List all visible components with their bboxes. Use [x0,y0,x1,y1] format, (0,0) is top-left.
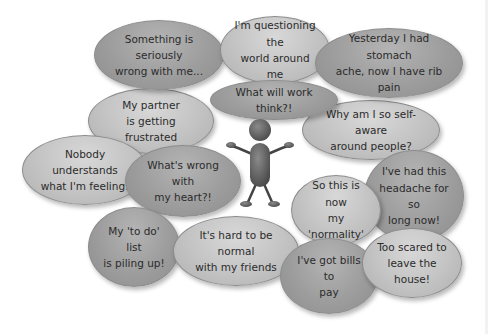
bubble-text: It's hard to be normal with my friends [186,227,286,276]
bubble-questioning-world: I'm questioning the world around me [220,16,330,84]
bubble-text: So this is now my 'normality' [304,177,368,242]
bubble-normality: So this is now my 'normality' [291,175,381,245]
bubble-bills-to-pay: I've got bills to pay [280,238,378,314]
bubble-text: Yesterday I had stomach ache, now I have… [328,30,450,95]
bubble-text: I'm questioning the world around me [233,17,317,82]
bubble-text: What's wrong with my heart?! [138,157,228,206]
bubble-heart: What's wrong with my heart?! [125,145,241,217]
bubble-text: Something is seriously wrong with me... [107,31,211,80]
shrugging-person-icon [226,118,294,208]
bubble-stomach-rib-pain: Yesterday I had stomach ache, now I have… [315,28,463,98]
bubble-text: My 'to do' list is piling up! [101,223,167,272]
bubble-what-will-work-think: What will work think?! [210,80,338,120]
bubble-something-wrong: Something is seriously wrong with me... [94,20,224,90]
bubble-too-scared: Too scared to leave the house! [362,228,462,298]
bubble-text: I've had this headache for so long now! [377,163,451,228]
bubble-text: I've got bills to pay [293,252,365,301]
thought-bubble-diagram: My partner is getting frustrated Somethi… [0,0,488,334]
bubble-text: What will work think?! [219,84,329,117]
bubble-text: Why am I so self-aware around people? [315,106,427,155]
bubble-text: My partner is getting frustrated [101,97,201,146]
bubble-text: Too scared to leave the house! [375,239,449,288]
bubble-todo-list: My 'to do' list is piling up! [88,207,180,287]
bubble-text: Nobody understands what I'm feeling! [35,146,135,195]
